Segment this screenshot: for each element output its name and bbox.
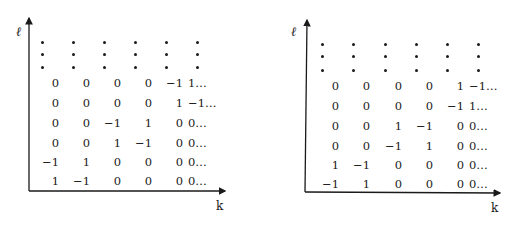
ellipsis-dot — [41, 66, 44, 69]
grid-cell: 0 — [64, 117, 90, 129]
x-axis-label: k — [491, 201, 498, 215]
ellipsis-dot — [72, 66, 75, 69]
grid-cell: 0 — [407, 80, 433, 92]
ellipsis-dot — [352, 55, 355, 58]
grid-cell: 0 — [344, 120, 370, 132]
grid-cell: 1 — [33, 175, 59, 187]
grid-cell: 1… — [188, 77, 228, 89]
grid-cell: 1 — [376, 120, 402, 132]
ellipsis-dot — [41, 53, 44, 56]
grid-cell: 0 — [126, 77, 152, 89]
grid-cell: 0… — [188, 137, 228, 149]
grid-cell: 0 — [95, 175, 121, 187]
ellipsis-dot — [352, 43, 355, 46]
grid-cell: −1 — [313, 178, 339, 190]
grid-cell: 0 — [438, 178, 464, 190]
grid-cell: 0 — [64, 137, 90, 149]
grid-cell: 1 — [438, 80, 464, 92]
grid-cell: 1 — [64, 156, 90, 168]
grid-cell: −1 — [64, 175, 90, 187]
grid-cell: 0 — [344, 100, 370, 112]
ellipsis-dot — [477, 69, 480, 72]
grid-cell: 0 — [157, 117, 183, 129]
ellipsis-dot — [446, 55, 449, 58]
ellipsis-dot — [72, 41, 75, 44]
ellipsis-dot — [103, 66, 106, 69]
grid-cell: −1 — [438, 100, 464, 112]
ellipsis-dot — [165, 66, 168, 69]
grid-cell: 1 — [313, 159, 339, 171]
grid-cell: 0… — [188, 156, 228, 168]
ellipsis-dot — [384, 69, 387, 72]
ellipsis-dot — [165, 41, 168, 44]
grid-cell: 0 — [126, 97, 152, 109]
grid-cell: 0… — [469, 159, 509, 171]
ellipsis-dot — [352, 69, 355, 72]
grid-cell: 0 — [157, 156, 183, 168]
grid-cell: −1 — [157, 77, 183, 89]
ellipsis-dot — [477, 43, 480, 46]
ellipsis-dot — [321, 55, 324, 58]
ellipsis-dot — [477, 55, 480, 58]
grid-cell: 0 — [438, 120, 464, 132]
grid-cell: −1 — [407, 120, 433, 132]
ellipsis-dot — [446, 43, 449, 46]
ellipsis-dot — [134, 66, 137, 69]
grid-cell: 0 — [64, 97, 90, 109]
ellipsis-dot — [196, 66, 199, 69]
grid-cell: 0 — [344, 80, 370, 92]
left-axes — [0, 0, 255, 225]
grid-cell: 0 — [313, 80, 339, 92]
ellipsis-dot — [134, 53, 137, 56]
grid-cell: 0 — [33, 117, 59, 129]
grid-cell: 0… — [469, 140, 509, 152]
ellipsis-dot — [321, 69, 324, 72]
ellipsis-dot — [384, 43, 387, 46]
grid-cell: 1 — [126, 117, 152, 129]
grid-cell: 0 — [344, 140, 370, 152]
ellipsis-dot — [321, 43, 324, 46]
grid-cell: 0 — [376, 100, 402, 112]
grid-cell: 0 — [95, 77, 121, 89]
grid-cell: 0 — [157, 175, 183, 187]
ellipsis-dot — [41, 41, 44, 44]
ellipsis-dot — [446, 69, 449, 72]
grid-cell: −1… — [188, 97, 228, 109]
grid-cell: 0 — [33, 97, 59, 109]
grid-cell: −1 — [376, 140, 402, 152]
ellipsis-dot — [196, 41, 199, 44]
x-axis-label: k — [216, 199, 223, 213]
grid-cell: 0 — [407, 100, 433, 112]
grid-cell: 1 — [407, 140, 433, 152]
grid-cell: −1 — [33, 156, 59, 168]
ellipsis-dot — [103, 53, 106, 56]
ellipsis-dot — [415, 69, 418, 72]
grid-cell: 0 — [438, 140, 464, 152]
ellipsis-dot — [415, 43, 418, 46]
grid-cell: 0 — [95, 156, 121, 168]
grid-cell: 1 — [157, 97, 183, 109]
ellipsis-dot — [103, 41, 106, 44]
grid-cell: 0 — [313, 140, 339, 152]
grid-cell: 0 — [157, 137, 183, 149]
grid-cell: 0 — [33, 77, 59, 89]
ellipsis-dot — [72, 53, 75, 56]
grid-cell: 0 — [126, 175, 152, 187]
grid-cell: −1… — [469, 80, 509, 92]
grid-cell: 0 — [313, 100, 339, 112]
grid-cell: 0 — [64, 77, 90, 89]
y-axis-label: ℓ — [16, 24, 21, 40]
ellipsis-dot — [384, 55, 387, 58]
ellipsis-dot — [134, 41, 137, 44]
grid-cell: 0 — [407, 159, 433, 171]
ellipsis-dot — [196, 53, 199, 56]
grid-cell: −1 — [95, 117, 121, 129]
grid-cell: −1 — [344, 159, 370, 171]
grid-cell: 0 — [33, 137, 59, 149]
ellipsis-dot — [165, 53, 168, 56]
ellipsis-dot — [415, 55, 418, 58]
grid-cell: 0 — [376, 80, 402, 92]
grid-cell: 1 — [95, 137, 121, 149]
grid-cell: 1… — [469, 100, 509, 112]
grid-cell: 0 — [376, 159, 402, 171]
